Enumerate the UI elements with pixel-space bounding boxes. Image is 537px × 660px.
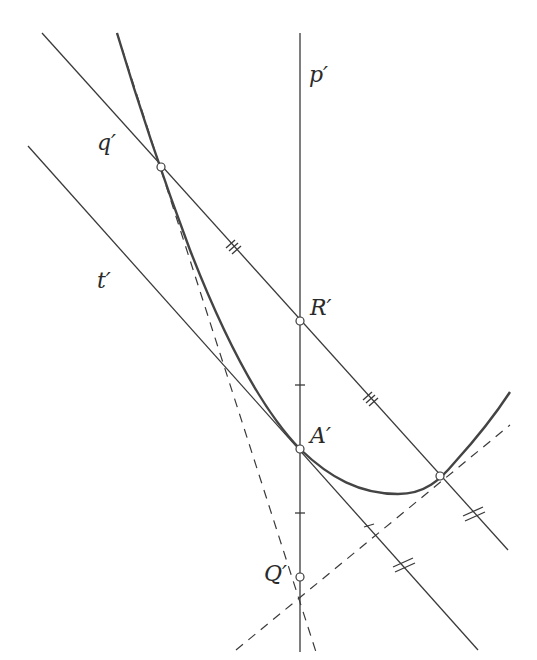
- point-Q: [296, 573, 304, 581]
- label-t: t′: [97, 270, 111, 292]
- point-R: [296, 317, 304, 325]
- line-t: [28, 146, 478, 650]
- label-R: R′: [310, 297, 332, 319]
- point-intersection-right: [436, 472, 444, 480]
- label-p: p′: [309, 64, 328, 86]
- double-hash-mark-t: [393, 558, 415, 572]
- label-A: A′: [310, 425, 331, 447]
- point-intersection-left: [157, 163, 165, 171]
- tangent-right-dashed: [236, 425, 510, 650]
- double-hash-mark-q: [463, 507, 485, 521]
- point-A: [296, 445, 304, 453]
- label-q: q′: [97, 132, 116, 154]
- label-Q: Q′: [264, 563, 287, 585]
